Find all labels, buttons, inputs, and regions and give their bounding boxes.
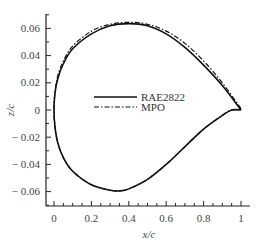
y-tick-label: − 0.04	[12, 158, 41, 170]
airfoil-chart: 0.06 0.04 0.02 0 − 0.02 − 0.04 − 0.06 0 …	[0, 0, 266, 248]
y-ticks	[46, 15, 51, 205]
x-tick-label: 0.2	[85, 212, 99, 224]
legend: RAE2822 MPO	[94, 91, 185, 113]
x-tick-label: 0.8	[197, 212, 211, 224]
y-axis-title: z/c	[4, 104, 16, 117]
x-ticks	[54, 201, 241, 206]
y-tick-label: 0.04	[21, 49, 41, 61]
x-tick-label: 0.6	[159, 212, 173, 224]
y-tick-label: − 0.06	[12, 185, 41, 197]
y-tick-label: 0	[35, 104, 41, 116]
x-tick-label: 1	[238, 212, 244, 224]
x-tick-labels: 0 0.2 0.4 0.6 0.8 1	[51, 212, 244, 224]
x-tick-label: 0	[51, 212, 57, 224]
y-tick-label: 0.06	[21, 22, 41, 34]
legend-label-mpo: MPO	[141, 101, 165, 113]
x-tick-label: 0.4	[122, 212, 136, 224]
x-axis-title: x/c	[142, 228, 156, 240]
y-tick-label: − 0.02	[12, 131, 40, 143]
y-tick-labels: 0.06 0.04 0.02 0 − 0.02 − 0.04 − 0.06	[12, 22, 41, 197]
y-tick-label: 0.02	[21, 76, 40, 88]
